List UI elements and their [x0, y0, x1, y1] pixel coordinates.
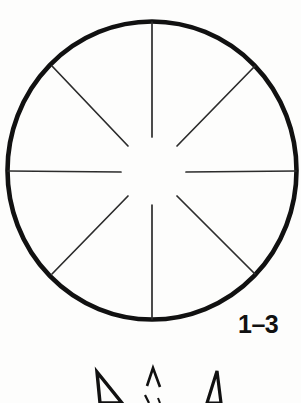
figure-caption: 1–3	[238, 310, 278, 338]
spoke-lower-right	[177, 196, 255, 274]
figure-page: 1–3	[0, 0, 301, 403]
spoke-left	[8, 171, 121, 172]
spoke-upper-right	[177, 66, 255, 146]
radial-spoke-circle-diagram	[0, 0, 301, 403]
bottom-arrow-marks	[97, 368, 221, 403]
arrow-mark-left-icon	[97, 372, 122, 403]
arrow-mark-center-icon	[145, 368, 160, 403]
spoke-lower-left	[52, 196, 128, 274]
arrow-mark-right-icon	[207, 371, 221, 403]
spoke-right	[186, 171, 296, 172]
spoke-upper-left	[52, 66, 128, 146]
